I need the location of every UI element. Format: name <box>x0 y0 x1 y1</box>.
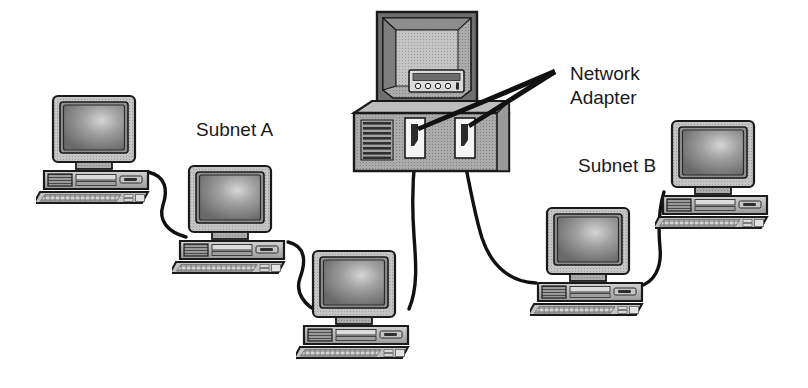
workstation-b1[interactable] <box>528 208 642 315</box>
label-subnet-a: Subnet A <box>196 119 273 140</box>
server-control-panel[interactable] <box>409 70 464 92</box>
server-vent-grille <box>361 120 393 160</box>
workstation-a3[interactable] <box>294 251 408 358</box>
label-network-adapter-line1: Network <box>570 63 640 84</box>
label-network-adapter-line2: Adapter <box>570 87 637 108</box>
workstation-a1[interactable] <box>34 96 148 203</box>
cable-b1-b2 <box>640 192 664 286</box>
workstation-b2[interactable] <box>653 121 767 228</box>
label-subnet-b: Subnet B <box>578 155 656 176</box>
network-adapter-port-1[interactable] <box>405 118 425 158</box>
workstation-a2[interactable] <box>170 166 284 273</box>
network-diagram-canvas: Subnet A Network Adapter Subnet B <box>0 0 808 388</box>
cable-a1-a2 <box>148 172 186 237</box>
leader-to-adapter-2 <box>468 69 556 128</box>
network-server[interactable] <box>354 12 509 171</box>
cable-a3-server <box>409 158 416 309</box>
cable-server-b1 <box>464 158 536 283</box>
